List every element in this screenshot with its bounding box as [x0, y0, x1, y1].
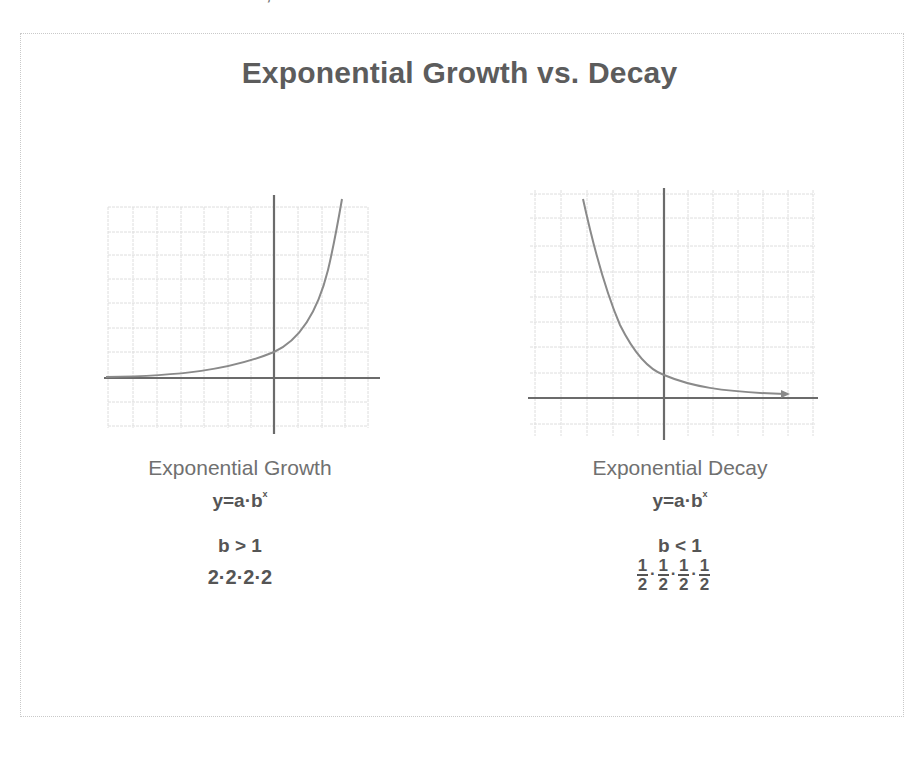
decay-curve-arrowhead-icon: [781, 390, 790, 398]
denominator: 2: [679, 577, 688, 592]
growth-condition: b > 1: [140, 535, 340, 557]
fraction: 1 2: [637, 558, 648, 592]
numerator: 1: [700, 558, 709, 573]
decay-axes: [528, 188, 818, 440]
decay-formula-base: y=a·b: [652, 490, 702, 511]
growth-formula-exponent: x: [263, 489, 268, 499]
growth-example: 2·2·2·2: [140, 566, 340, 589]
multiply-dot: ·: [671, 564, 677, 584]
decay-formula-exponent: x: [703, 489, 708, 499]
multiply-dot: ·: [650, 564, 656, 584]
numerator: 1: [638, 558, 647, 573]
growth-formula-base: y=a·b: [212, 490, 262, 511]
decay-condition: b < 1: [580, 535, 780, 557]
multiply-dot: ·: [691, 564, 697, 584]
numerator: 1: [658, 558, 667, 573]
denominator: 2: [658, 577, 667, 592]
denominator: 2: [638, 577, 647, 592]
fraction: 1 2: [678, 558, 689, 592]
denominator: 2: [700, 577, 709, 592]
decay-example: 1 2 · 1 2 · 1 2 · 1 2: [637, 558, 710, 592]
growth-formula: y=a·bx: [140, 490, 340, 512]
decay-graph: [0, 0, 919, 757]
growth-label: Exponential Growth: [100, 456, 380, 480]
decay-label: Exponential Decay: [540, 456, 820, 480]
fraction: 1 2: [699, 558, 710, 592]
decay-formula: y=a·bx: [580, 490, 780, 512]
fraction: 1 2: [658, 558, 669, 592]
numerator: 1: [679, 558, 688, 573]
